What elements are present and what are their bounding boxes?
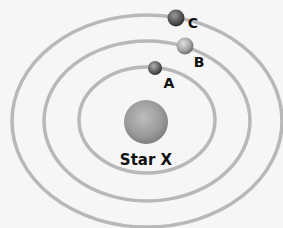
planet-a-label: A: [164, 75, 175, 91]
planet-b-label: B: [194, 54, 205, 70]
star-label: Star X: [120, 151, 173, 169]
orbit-diagram: Star X A B C: [0, 0, 283, 228]
planet-b: [177, 38, 194, 55]
planet-c: [168, 10, 185, 27]
planet-c-label: C: [188, 15, 198, 31]
star-x: [124, 100, 168, 144]
planet-a: [148, 61, 162, 75]
